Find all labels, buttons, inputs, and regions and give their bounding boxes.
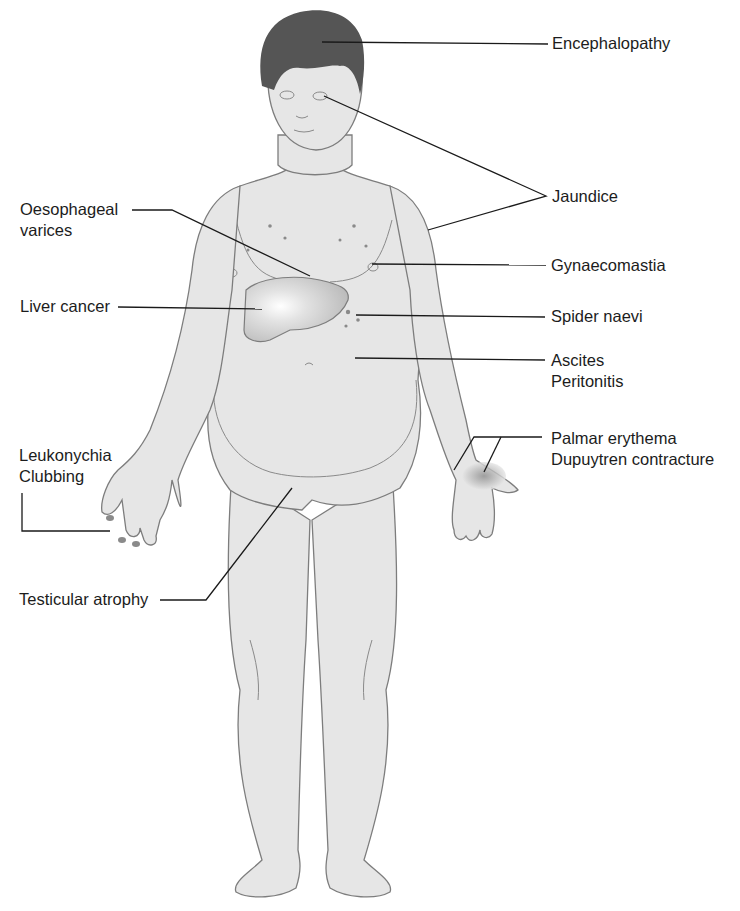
label-encephalopathy: Encephalopathy <box>552 33 670 54</box>
label-spider-naevi: Spider naevi <box>551 306 643 327</box>
label-oesophageal-varices: Oesophagealvarices <box>20 199 118 241</box>
legs <box>228 470 396 897</box>
label-palmar-erythema: Palmar erythemaDupuytren contracture <box>551 428 714 470</box>
label-ascites-peritonitis: AscitesPeritonitis <box>551 350 623 392</box>
label-testicular-atrophy: Testicular atrophy <box>19 589 148 610</box>
label-gynaecomastia: Gynaecomastia <box>551 255 666 276</box>
label-leukonychia-clubbing: LeukonychiaClubbing <box>19 445 112 487</box>
head <box>260 10 364 174</box>
label-jaundice: Jaundice <box>552 186 618 207</box>
label-liver-cancer: Liver cancer <box>20 296 110 317</box>
liver-disease-figure: Encephalopathy Jaundice Oesophagealvaric… <box>0 0 740 911</box>
